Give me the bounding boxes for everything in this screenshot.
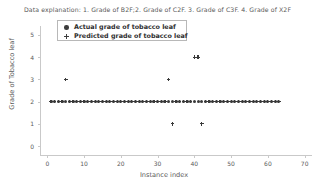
data-point-series-1 bbox=[200, 122, 204, 126]
x-tick-label: 10 bbox=[76, 160, 92, 167]
y-tick-label: 0 bbox=[20, 143, 34, 150]
data-point-series-1 bbox=[171, 122, 175, 126]
x-tick-label: 70 bbox=[297, 160, 313, 167]
data-point-series-1 bbox=[277, 100, 281, 104]
data-point-series-1 bbox=[167, 78, 171, 82]
x-tick-mark bbox=[268, 156, 269, 158]
y-axis-title: Grade of Tobacco leaf bbox=[8, 26, 16, 122]
plot-area bbox=[40, 26, 312, 155]
y-tick-label: 4 bbox=[20, 54, 34, 61]
x-tick-mark bbox=[121, 156, 122, 158]
y-tick-label: 5 bbox=[20, 31, 34, 38]
data-point-series-0 bbox=[197, 100, 200, 103]
chart-figure: Data explanation: 1. Grade of B2F;2. Gra… bbox=[0, 0, 328, 188]
x-tick-label: 60 bbox=[260, 160, 276, 167]
x-tick-mark bbox=[47, 156, 48, 158]
data-point-series-1 bbox=[196, 55, 200, 59]
x-tick-mark bbox=[231, 156, 232, 158]
x-tick-label: 0 bbox=[39, 160, 55, 167]
x-axis-title: Instance index bbox=[0, 171, 328, 179]
data-point-series-0 bbox=[193, 100, 196, 103]
x-tick-mark bbox=[194, 156, 195, 158]
x-tick-label: 40 bbox=[186, 160, 202, 167]
data-point-series-1 bbox=[189, 100, 193, 104]
x-tick-mark bbox=[158, 156, 159, 158]
x-tick-label: 30 bbox=[150, 160, 166, 167]
data-point-series-1 bbox=[64, 78, 68, 82]
data-point-series-1 bbox=[163, 100, 167, 104]
x-tick-label: 50 bbox=[223, 160, 239, 167]
x-tick-mark bbox=[305, 156, 306, 158]
y-tick-label: 3 bbox=[20, 76, 34, 83]
x-axis-line bbox=[40, 155, 312, 156]
data-point-series-1 bbox=[60, 100, 64, 104]
data-explanation-caption: Data explanation: 1. Grade of B2F;2. Gra… bbox=[24, 6, 291, 13]
x-tick-label: 20 bbox=[113, 160, 129, 167]
x-tick-mark bbox=[84, 156, 85, 158]
y-tick-label: 1 bbox=[20, 120, 34, 127]
y-tick-label: 2 bbox=[20, 98, 34, 105]
